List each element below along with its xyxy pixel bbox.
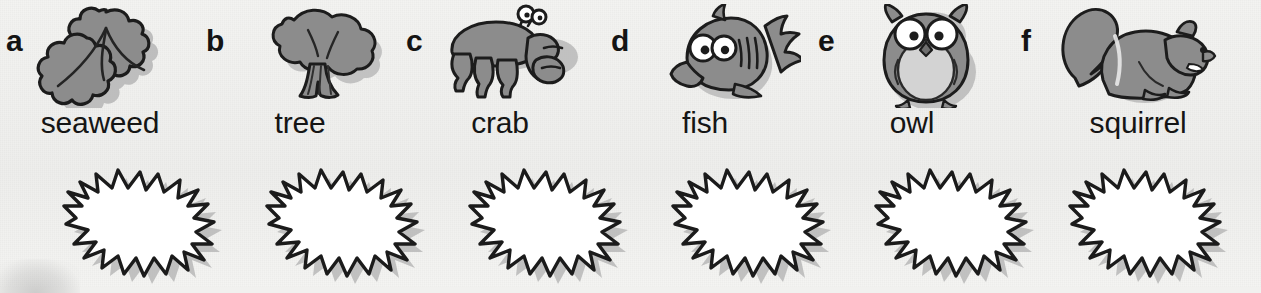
answer-box-2[interactable] xyxy=(255,164,455,284)
answer-box-1[interactable] xyxy=(52,164,252,284)
answer-box-4[interactable] xyxy=(661,164,861,284)
squirrel-icon xyxy=(1049,4,1235,108)
tree-icon xyxy=(228,4,396,108)
item-letter-d: d xyxy=(611,26,629,56)
item-label-seaweed: seaweed xyxy=(0,108,200,138)
item-cell-seaweed[interactable]: a xyxy=(0,0,200,160)
item-cell-squirrel[interactable]: f xyxy=(1015,0,1261,160)
crab-icon xyxy=(428,4,596,108)
picture-items-row: a xyxy=(0,0,1261,160)
item-cell-tree[interactable]: b xyxy=(200,0,400,160)
page-edge-smudge xyxy=(0,259,80,293)
item-cell-fish[interactable]: d xyxy=(605,0,805,160)
owl-icon xyxy=(840,4,1008,108)
item-label-crab: crab xyxy=(400,108,600,138)
item-letter-f: f xyxy=(1021,26,1031,56)
item-label-squirrel: squirrel xyxy=(1015,108,1261,138)
item-letter-e: e xyxy=(818,26,834,56)
answer-boxes-row xyxy=(0,160,1261,287)
seaweed-icon xyxy=(28,4,196,108)
item-label-fish: fish xyxy=(605,108,805,138)
item-letter-a: a xyxy=(6,26,22,56)
item-letter-c: c xyxy=(406,26,422,56)
fish-icon xyxy=(633,4,801,108)
item-letter-b: b xyxy=(206,26,224,56)
item-cell-crab[interactable]: c xyxy=(400,0,600,160)
item-label-owl: owl xyxy=(812,108,1012,138)
answer-box-3[interactable] xyxy=(458,164,658,284)
item-label-tree: tree xyxy=(200,108,400,138)
answer-box-5[interactable] xyxy=(864,164,1064,284)
item-cell-owl[interactable]: e xyxy=(812,0,1012,160)
answer-box-6[interactable] xyxy=(1058,164,1258,284)
